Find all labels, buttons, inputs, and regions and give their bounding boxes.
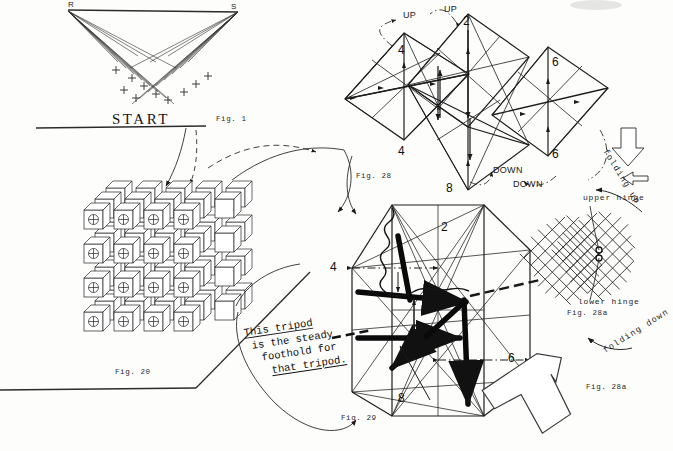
fig28-up-label-2: UP [444,5,457,14]
fig28-edge-chevrons [350,48,580,166]
hollow-arrow-up-left-icon [482,344,590,448]
scan-smudge [570,0,622,10]
fig20-caption: Fig. 20 [115,369,151,377]
fig1-weave-ticks [112,66,212,104]
fig1-horizon [68,10,238,12]
diagram-canvas [0,0,673,451]
flow-arrow-fig1-to-fig20 [166,128,197,186]
diagram-page: R S START Fig. 1 Fig. 20 UP UP DOWN DOWN… [0,0,673,451]
fig28-vertex-2: 2 [463,15,470,27]
fig28a-caption-upper: Fig. 28a [567,310,608,318]
fig29-center-label: 8 [422,305,426,313]
fig29-caption: Fig. 29 [341,415,377,423]
fig28-octahedra-chain [345,10,608,190]
fig28-down-label-1: DOWN [493,166,523,175]
fig28-up-label-1: UP [403,11,416,20]
fig28-to-28a-arrows [347,156,356,214]
fig29-vertex-6: 6 [508,352,515,364]
fig28a-lower-hinge-label: lower hinge [578,298,640,306]
fig1-caption: Fig. 1 [216,116,247,124]
fig28-down-label-2: DOWN [513,180,543,189]
fig1-start-label: START [112,112,170,127]
fig28-vertex-6-bottom: 6 [552,148,559,160]
fig28-vertex-8: 8 [446,182,453,194]
fig1-vertex-label-r: R [68,1,74,9]
fig20-cube-array [84,181,252,331]
fig29-squiggle [380,208,469,296]
fig29-vertex-4: 4 [330,261,337,273]
fig28-vertex-4-bottom: 4 [398,145,405,157]
fig29-vertex-8: 8 [398,392,405,404]
fig1-vertex-label-s: S [231,3,236,11]
fig28a-caption-lower: Fig. 28a [586,384,627,392]
fig28-octa-left [345,33,469,140]
fig28-caption: Fig. 28 [356,173,392,181]
fig28-vertex-6-top: 6 [552,56,559,68]
fig29-vertex-2: 2 [441,221,448,233]
fig28-inner-arrows [438,30,470,160]
fig28-vertex-4-top: 4 [398,44,405,56]
